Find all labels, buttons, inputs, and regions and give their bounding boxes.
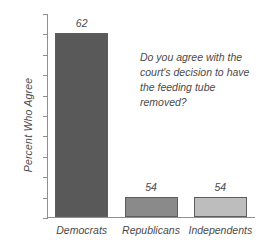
bar-independents (194, 197, 247, 217)
bar-chart: Percent Who Agree 6362616059585756555453… (0, 0, 262, 247)
y-tick-mark (43, 136, 48, 137)
y-tick-mark (43, 14, 48, 15)
bar-democrats (55, 33, 108, 217)
y-tick-mark (43, 96, 48, 97)
bar-value-label: 62 (52, 17, 112, 29)
y-tick-mark (43, 157, 48, 158)
y-tick-mark (43, 75, 48, 76)
y-tick-mark (43, 55, 48, 56)
x-axis-line (47, 217, 255, 218)
bar-republicans (125, 197, 178, 217)
y-tick-mark (43, 116, 48, 117)
x-axis-label-independents: Independents (175, 224, 262, 236)
plot-area: 6362616059585756555453 625454 DemocratsR… (47, 14, 255, 218)
y-axis-title: Percent Who Agree (22, 60, 34, 190)
y-tick-mark (43, 177, 48, 178)
bar-value-label: 54 (190, 181, 250, 193)
survey-question-annotation: Do you agree with the court's decision t… (140, 50, 256, 110)
bar-value-label: 54 (121, 181, 181, 193)
y-tick-mark (43, 34, 48, 35)
y-tick-mark (43, 198, 48, 199)
y-tick-mark (43, 218, 48, 219)
